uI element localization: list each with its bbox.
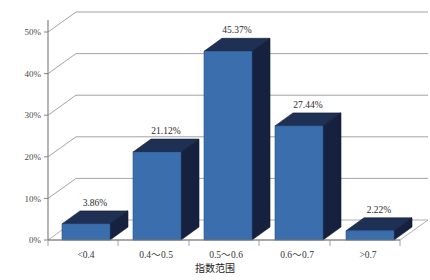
x-category-label-2: 0.5～0.6 [209, 250, 243, 260]
x-category-label-3: 0.6～0.7 [280, 250, 314, 260]
data-label-0: 3.86% [83, 198, 108, 208]
y-tick-label-50: 50% [25, 27, 42, 37]
x-category-label-4: >0.7 [359, 250, 376, 260]
y-tick-label-20: 20% [25, 152, 42, 162]
bar-group-3[interactable] [275, 113, 341, 240]
bar-front-face-3 [275, 126, 323, 240]
bar-side-face-2 [252, 38, 270, 240]
y-tick-label-40: 40% [25, 69, 42, 79]
y-tick-label-0: 0% [29, 235, 42, 245]
bar-group-2[interactable] [204, 38, 270, 240]
bar-side-face-1 [181, 139, 199, 240]
bar-side-face-3 [323, 113, 341, 240]
y-tick-label-10: 10% [25, 194, 42, 204]
x-axis-title: 指数范围 [195, 262, 235, 274]
y-tick-label-30: 30% [25, 110, 42, 120]
bar-front-face-0 [62, 224, 110, 240]
bar-group-1[interactable] [133, 139, 199, 240]
data-label-1: 21.12% [151, 126, 180, 136]
data-label-4: 2.22% [367, 205, 392, 215]
x-category-label-0: <0.4 [77, 250, 94, 260]
bar-front-face-2 [204, 51, 252, 240]
chart-canvas: 50% 40% 30% 20% 10% 0% [0, 0, 430, 280]
bar-chart-3d: 50% 40% 30% 20% 10% 0% [0, 0, 430, 280]
data-label-2: 45.37% [222, 25, 251, 35]
bar-front-face-1 [133, 152, 181, 240]
data-label-3: 27.44% [293, 100, 322, 110]
x-category-label-1: 0.4～0.5 [139, 250, 173, 260]
bar-front-face-4 [346, 231, 394, 240]
